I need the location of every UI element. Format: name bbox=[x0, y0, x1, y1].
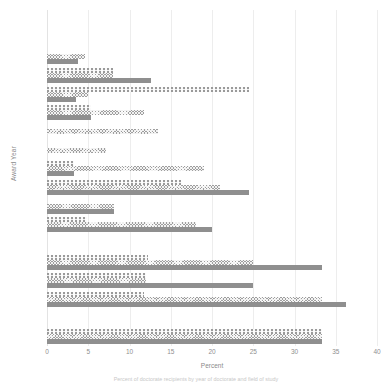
bar-2001-series-3 bbox=[47, 171, 74, 176]
bar-2002-series-2 bbox=[47, 148, 106, 153]
bar-2007-series-3 bbox=[47, 59, 78, 64]
bar-2004-series-3 bbox=[47, 115, 91, 120]
bar-2003-series-2 bbox=[47, 129, 158, 134]
x-tick-15: 15 bbox=[167, 348, 174, 355]
bar-1996-series-3 bbox=[47, 265, 322, 270]
gridline-20 bbox=[212, 10, 213, 346]
x-tick-10: 10 bbox=[126, 348, 133, 355]
x-tick-40: 40 bbox=[373, 348, 380, 355]
gridline-25 bbox=[253, 10, 254, 346]
bar-1992-series-3 bbox=[47, 339, 322, 344]
bar-1998-series-3 bbox=[47, 227, 212, 232]
x-tick-30: 30 bbox=[291, 348, 298, 355]
x-tick-25: 25 bbox=[250, 348, 257, 355]
chart-figure: Award Year 20092008200720062005200420032… bbox=[0, 0, 392, 386]
gridline-30 bbox=[295, 10, 296, 346]
y-axis-title: Award Year bbox=[10, 129, 17, 199]
x-tick-5: 5 bbox=[86, 348, 90, 355]
x-tick-0: 0 bbox=[45, 348, 49, 355]
bar-2006-series-3 bbox=[47, 78, 151, 83]
bar-1999-series-3 bbox=[47, 209, 114, 214]
gridline-15 bbox=[171, 10, 172, 346]
bar-2000-series-3 bbox=[47, 190, 249, 195]
bar-1994-series-3 bbox=[47, 302, 346, 307]
bar-2005-series-3 bbox=[47, 97, 76, 102]
x-tick-20: 20 bbox=[208, 348, 215, 355]
x-tick-35: 35 bbox=[332, 348, 339, 355]
figure-caption: Percent of doctorate recipients by year … bbox=[8, 376, 384, 383]
gridline-35 bbox=[336, 10, 337, 346]
plot-area: 2009200820072006200520042003200220012000… bbox=[47, 10, 377, 346]
bar-1995-series-3 bbox=[47, 283, 253, 288]
x-axis-title: Percent bbox=[47, 362, 377, 369]
gridline-40 bbox=[377, 10, 378, 346]
